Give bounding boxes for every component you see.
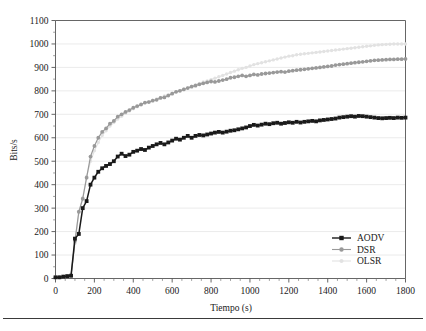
- x-tick-label: 1600: [357, 286, 376, 296]
- x-tick-label: 0: [53, 286, 58, 296]
- y-tick-label: 100: [34, 250, 49, 260]
- y-tick-label: 700: [34, 110, 49, 120]
- chart-figure: 020040060080010001200140016001800 010020…: [0, 0, 426, 331]
- y-tick-label: 600: [34, 133, 49, 143]
- y-tick-label: 900: [34, 63, 49, 73]
- y-tick-label: 200: [34, 227, 49, 237]
- x-tick-label: 1200: [279, 286, 298, 296]
- y-tick-label: 1000: [30, 39, 49, 49]
- x-axis-title: Tiempo (s): [210, 303, 252, 314]
- x-tick-label: 1800: [396, 286, 415, 296]
- y-tick-label: 300: [34, 204, 49, 214]
- y-axis-title: Bits/s: [9, 139, 19, 161]
- x-tick-label: 1000: [240, 286, 259, 296]
- legend-label: AODV: [357, 233, 385, 243]
- y-tick-label: 400: [34, 180, 49, 190]
- y-tick-label: 800: [34, 86, 49, 96]
- x-tick-label: 1400: [318, 286, 337, 296]
- x-tick-label: 600: [165, 286, 180, 296]
- chart-background: [0, 0, 426, 331]
- x-tick-label: 200: [87, 286, 102, 296]
- legend-label: DSR: [357, 245, 376, 255]
- y-tick-label: 500: [34, 157, 49, 167]
- x-tick-label: 400: [126, 286, 141, 296]
- bottom-horizontal-rule: [3, 318, 423, 319]
- legend-label: OLSR: [357, 256, 382, 266]
- throughput-line-chart: 020040060080010001200140016001800 010020…: [0, 0, 426, 331]
- y-tick-label: 1100: [30, 16, 49, 26]
- x-tick-label: 800: [204, 286, 219, 296]
- y-tick-label: 0: [44, 274, 49, 284]
